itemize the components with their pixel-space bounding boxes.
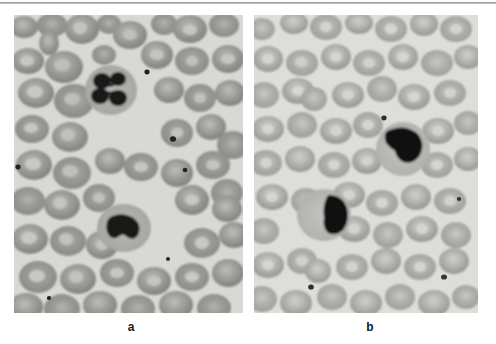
panel-label-a: a [124,321,138,333]
panel-b-image [254,15,478,313]
header-rule [0,2,496,4]
panel-a-micrograph [14,15,243,313]
panel-b-micrograph [254,15,478,313]
panel-label-b: b [363,321,377,333]
panel-a-image [14,15,243,313]
blood-smear-figure: a b [0,0,496,344]
